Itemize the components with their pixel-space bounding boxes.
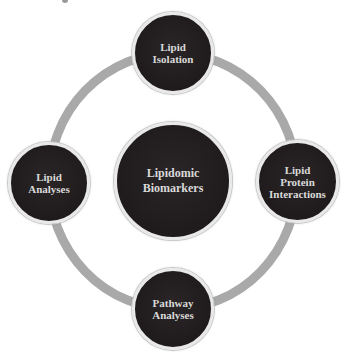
node-lipid-isolation: Lipid Isolation (132, 12, 214, 94)
node-label: Pathway Analyses (152, 297, 194, 321)
center-node-label: Lipidomic Biomarkers (143, 166, 204, 196)
node-label: Lipid Analyses (28, 171, 70, 195)
lipidomics-cycle-diagram: Lipidomic Biomarkers Lipid Isolation Lip… (0, 0, 344, 362)
center-node-lipidomic-biomarkers: Lipidomic Biomarkers (114, 122, 232, 240)
node-lipid-protein-interactions: Lipid Protein Interactions (256, 140, 339, 223)
node-pathway-analyses: Pathway Analyses (132, 268, 214, 350)
node-label: Lipid Protein Interactions (269, 164, 326, 200)
node-label: Lipid Isolation (153, 41, 194, 65)
node-lipid-analyses: Lipid Analyses (8, 142, 90, 224)
